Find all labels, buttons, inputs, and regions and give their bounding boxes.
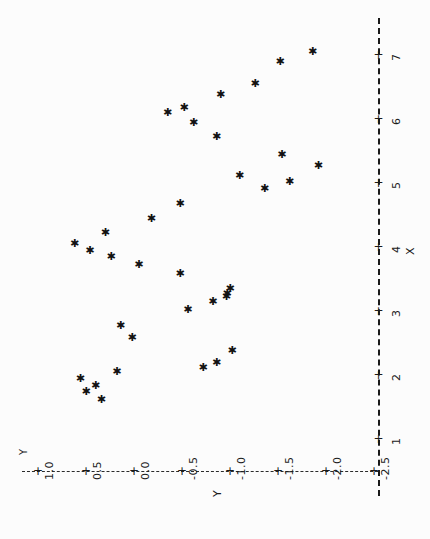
data-point: [176, 269, 185, 278]
y-axis-tick: [273, 466, 284, 477]
x-axis-tick: [373, 434, 384, 445]
data-point: [112, 367, 121, 376]
data-point: [176, 199, 185, 208]
data-point: [85, 246, 94, 255]
data-point: [216, 90, 225, 99]
data-point: [226, 284, 235, 293]
data-point: [70, 239, 79, 248]
data-point: [183, 305, 192, 314]
y-axis-tick: [177, 466, 188, 477]
x-axis-tick-label: 5: [390, 182, 403, 189]
scatter-plot-area: [0, 0, 430, 539]
data-point: [212, 358, 221, 367]
data-point: [82, 387, 91, 396]
y-axis-tick: [129, 466, 140, 477]
x-axis-tick-label: 7: [390, 54, 403, 61]
y-axis-tick-label: -2.0: [331, 457, 344, 480]
data-point: [106, 252, 115, 261]
x-axis-tick-label: 3: [390, 310, 403, 317]
data-point: [128, 333, 137, 342]
y-axis-tick: [321, 466, 332, 477]
data-point: [208, 297, 217, 306]
data-point: [76, 374, 85, 383]
y-axis-tick-label: -1.5: [283, 457, 296, 480]
x-axis-title: X: [404, 247, 417, 255]
x-axis-tick: [373, 370, 384, 381]
data-point: [199, 363, 208, 372]
data-point: [134, 260, 143, 269]
data-point: [308, 47, 317, 56]
y-axis-tick: [225, 466, 236, 477]
x-axis-tick: [373, 306, 384, 317]
x-axis-tick-label: 2: [390, 374, 403, 381]
data-point: [179, 103, 188, 112]
x-axis-tick-label: 4: [390, 246, 403, 253]
x-axis-tick-label: 6: [390, 118, 403, 125]
y-axis-tick-label: 0.5: [91, 461, 104, 480]
y-axis-origin-glyph: Y: [18, 449, 29, 455]
x-axis-line: [378, 18, 380, 496]
data-point: [227, 346, 236, 355]
data-point: [147, 214, 156, 223]
data-point: [260, 184, 269, 193]
x-axis-tick: [373, 50, 384, 61]
data-point: [116, 321, 125, 330]
data-point: [235, 171, 244, 180]
y-axis-tick-label: 1.0: [43, 461, 56, 480]
data-point: [275, 57, 284, 66]
y-axis-tick-label: 0.0: [139, 461, 152, 480]
x-axis-tick-label: 1: [390, 438, 403, 445]
data-point: [212, 132, 221, 141]
x-axis-tick: [373, 242, 384, 253]
data-point: [314, 161, 323, 170]
data-point: [101, 228, 110, 237]
data-point: [189, 118, 198, 127]
data-point: [250, 79, 259, 88]
data-point: [285, 177, 294, 186]
data-point: [163, 108, 172, 117]
data-point: [277, 150, 286, 159]
y-axis-tick-label: -1.0: [235, 457, 248, 480]
chart-canvas: Y 1.00.50.0-0.5-1.0-1.5-2.0-2.5 Y 123456…: [0, 0, 430, 539]
y-axis-tick-label: -2.5: [379, 457, 392, 480]
y-axis-tick-label: -0.5: [187, 457, 200, 480]
x-axis-tick: [373, 178, 384, 189]
data-point: [91, 381, 100, 390]
y-axis-tick: [81, 466, 92, 477]
y-axis-title: Y: [211, 490, 224, 497]
data-point: [97, 395, 106, 404]
y-axis-tick: [33, 466, 44, 477]
x-axis-tick: [373, 114, 384, 125]
